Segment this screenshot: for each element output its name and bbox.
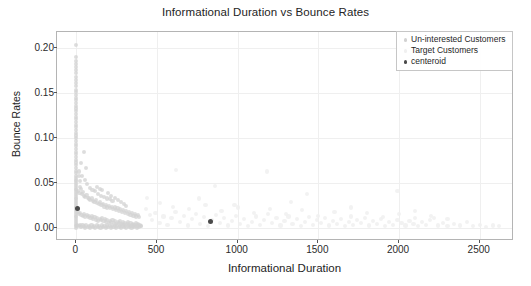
data-point [137,215,141,219]
data-point [86,196,90,200]
data-point [113,219,117,223]
data-point [101,202,105,206]
data-point [187,207,191,211]
x-tick-mark [317,240,318,243]
legend-marker-icon [400,59,411,64]
data-point [122,202,126,206]
data-point [112,221,116,225]
data-point [138,223,142,227]
data-point [103,217,107,221]
data-point [349,214,353,218]
y-tick-label: 0.20 [8,42,54,53]
data-point [114,208,118,212]
data-point [174,168,178,172]
data-point [95,223,99,227]
data-point [124,204,128,208]
data-point [130,211,134,215]
y-tick-label: 0.00 [8,222,54,233]
x-tick-label: 2500 [449,244,509,255]
data-point [104,220,108,224]
data-point [83,178,87,182]
data-point [90,214,94,218]
data-point [110,205,114,209]
data-point [118,207,122,211]
data-point [92,200,96,204]
x-tick-mark [398,240,399,243]
data-point [111,207,115,211]
data-point [120,210,124,214]
data-point [339,217,343,221]
data-point [79,161,83,165]
data-point [323,216,327,220]
data-point [148,213,152,217]
data-point [270,221,274,225]
y-tick-mark [54,47,57,48]
legend-label: centeroid [411,56,446,66]
data-point [80,174,84,178]
data-point [126,220,130,224]
data-point [109,220,113,224]
data-point [99,203,103,207]
chart-figure: Informational Duration vs Bounce Rates B… [0,0,531,286]
x-tick-label: 500 [126,244,186,255]
x-axis-label: Informational Duration [56,262,513,274]
data-point [106,191,110,195]
data-point [411,222,415,226]
data-point [82,150,86,154]
data-point [432,216,436,220]
data-point [97,202,101,206]
data-point [121,208,125,212]
data-point [135,223,139,227]
legend-item[interactable]: Un-interested Customers [400,34,509,44]
data-point [85,213,89,217]
data-point [413,209,417,213]
data-point [289,200,293,204]
legend-label: Target Customers [411,45,478,55]
data-point [123,221,127,225]
data-point [429,214,433,218]
data-point [84,223,88,227]
y-tick-mark [54,227,57,228]
data-point [381,215,385,219]
data-point [88,216,92,220]
data-point [91,217,95,221]
y-tick-mark [54,137,57,138]
data-point [80,223,84,227]
data-point [282,219,286,223]
data-point [161,214,165,218]
data-point [349,205,353,209]
y-tick-label: 0.10 [8,132,54,143]
x-tick-label: 1000 [207,244,267,255]
data-point [110,199,114,203]
data-point [108,219,112,223]
data-point [136,223,140,227]
data-point [268,207,272,211]
data-point [365,211,369,215]
data-point [387,220,391,224]
data-point [108,197,112,201]
gridline-horizontal [57,93,512,94]
data-point [465,220,469,224]
data-point [81,190,85,194]
legend-item[interactable]: Target Customers [400,45,509,55]
data-point [198,222,202,226]
x-tick-mark [156,240,157,243]
data-point [274,216,278,220]
data-point [242,217,246,221]
data-point [105,218,109,222]
y-tick-label: 0.05 [8,177,54,188]
data-point [158,201,162,205]
data-point [99,218,103,222]
data-point [90,196,94,200]
data-point [379,217,383,221]
x-tick-label: 2000 [368,244,428,255]
data-point [105,196,109,200]
data-point [81,214,85,218]
gridline-vertical [76,32,77,239]
x-tick-mark [237,240,238,243]
data-point [127,210,131,214]
data-point [78,185,82,189]
data-point [208,219,213,224]
legend-item[interactable]: centeroid [400,56,509,66]
data-point [98,217,102,221]
